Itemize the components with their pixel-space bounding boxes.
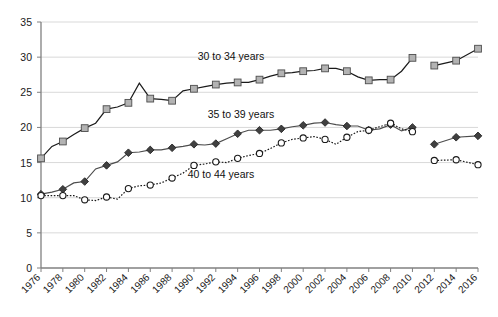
x-tick-label: 1988 xyxy=(150,271,174,295)
data-point-circle xyxy=(60,193,66,199)
data-point-square xyxy=(387,76,394,83)
data-point-square xyxy=(365,77,372,84)
series-label: 40 to 44 years xyxy=(188,168,255,180)
x-tick-label: 1986 xyxy=(128,271,152,295)
data-point-square xyxy=(278,70,285,77)
x-tick-label: 2012 xyxy=(412,271,436,295)
series-line xyxy=(41,123,412,200)
x-tick-label: 1978 xyxy=(41,271,65,295)
data-point-circle xyxy=(147,182,153,188)
data-point-diamond xyxy=(190,140,198,148)
data-point-square xyxy=(147,95,154,102)
data-point-circle xyxy=(344,134,350,140)
data-point-square xyxy=(256,76,263,83)
x-tick-label: 2010 xyxy=(390,271,414,295)
series-label: 30 to 34 years xyxy=(198,50,265,62)
data-point-diamond xyxy=(474,132,482,140)
data-point-circle xyxy=(409,129,415,135)
data-point-circle xyxy=(300,135,306,141)
data-series xyxy=(37,45,482,203)
data-point-diamond xyxy=(321,119,329,127)
x-axis-tick-labels: 1976197819801982198419861988199019921994… xyxy=(19,268,480,295)
y-tick-label: 20 xyxy=(20,121,32,133)
y-axis-tick-labels: 05101520253035 xyxy=(20,16,41,274)
data-point-circle xyxy=(388,120,394,126)
data-point-circle xyxy=(475,162,481,168)
x-tick-label: 2002 xyxy=(303,271,327,295)
x-tick-label: 2000 xyxy=(281,271,305,295)
y-tick-label: 0 xyxy=(26,262,32,274)
x-tick-label: 1996 xyxy=(237,271,261,295)
data-point-circle xyxy=(169,175,175,181)
data-point-square xyxy=(344,68,351,75)
y-tick-label: 35 xyxy=(20,16,32,28)
data-point-diamond xyxy=(234,130,242,138)
x-tick-label: 1980 xyxy=(63,271,87,295)
x-tick-label: 2004 xyxy=(325,271,349,295)
line-chart: 05101520253035 1976197819801982198419861… xyxy=(0,0,498,317)
y-tick-label: 10 xyxy=(20,192,32,204)
data-point-circle xyxy=(213,159,219,165)
data-point-diamond xyxy=(146,146,154,154)
x-tick-label: 1984 xyxy=(106,271,130,295)
chart-container: 05101520253035 1976197819801982198419861… xyxy=(0,0,498,317)
data-point-diamond xyxy=(299,122,307,130)
data-point-square xyxy=(300,68,307,75)
data-point-square xyxy=(125,99,132,106)
x-tick-label: 1994 xyxy=(216,271,240,295)
x-tick-label: 2016 xyxy=(456,271,480,295)
y-tick-label: 25 xyxy=(20,86,32,98)
series-30-to-34-years xyxy=(38,45,482,161)
x-tick-label: 1998 xyxy=(259,271,283,295)
data-point-square xyxy=(431,62,438,69)
data-point-square xyxy=(322,65,329,72)
data-point-circle xyxy=(38,193,44,199)
series-line xyxy=(41,123,412,195)
x-tick-label: 1990 xyxy=(172,271,196,295)
data-point-diamond xyxy=(343,122,351,130)
data-point-circle xyxy=(278,140,284,146)
y-tick-label: 30 xyxy=(20,51,32,63)
x-tick-label: 1992 xyxy=(194,271,218,295)
data-point-square xyxy=(191,85,198,92)
data-point-circle xyxy=(366,127,372,133)
data-point-square xyxy=(169,97,176,104)
data-point-circle xyxy=(125,185,131,191)
data-point-circle xyxy=(82,197,88,203)
data-point-circle xyxy=(103,194,109,200)
x-tick-label: 1982 xyxy=(84,271,108,295)
data-point-square xyxy=(38,155,45,162)
y-tick-label: 5 xyxy=(26,227,32,239)
x-tick-label: 2008 xyxy=(369,271,393,295)
data-point-diamond xyxy=(452,133,460,141)
x-tick-label: 2014 xyxy=(434,271,458,295)
data-point-diamond xyxy=(59,185,67,193)
data-point-diamond xyxy=(212,140,220,148)
data-point-square xyxy=(103,106,110,113)
data-point-square xyxy=(475,45,482,52)
x-tick-label: 1976 xyxy=(19,271,43,295)
data-point-diamond xyxy=(168,144,176,152)
data-point-circle xyxy=(235,155,241,161)
data-point-circle xyxy=(453,157,459,163)
data-point-square xyxy=(453,57,460,64)
data-point-diamond xyxy=(278,125,286,133)
data-point-square xyxy=(81,125,88,132)
data-point-square xyxy=(59,138,66,145)
data-point-circle xyxy=(322,136,328,142)
x-tick-label: 2006 xyxy=(347,271,371,295)
data-point-diamond xyxy=(431,140,439,148)
data-point-square xyxy=(409,54,416,61)
data-point-circle xyxy=(431,157,437,163)
data-point-circle xyxy=(256,150,262,156)
data-point-square xyxy=(212,81,219,88)
y-tick-label: 15 xyxy=(20,157,32,169)
data-point-square xyxy=(234,79,241,86)
series-label: 35 to 39 years xyxy=(208,108,275,120)
